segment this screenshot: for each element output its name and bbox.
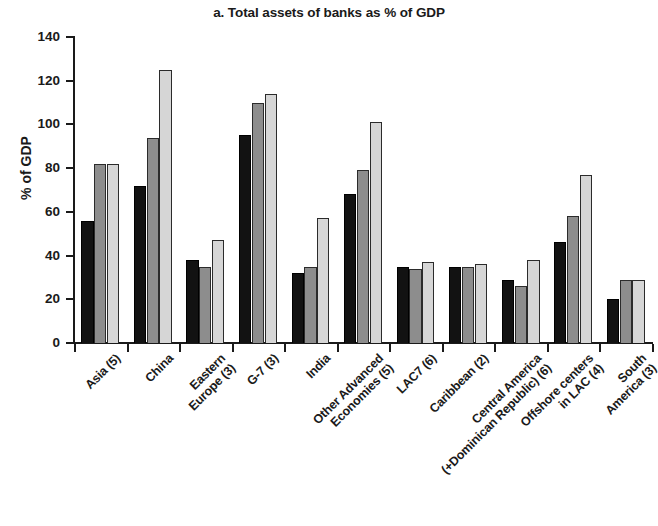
bar <box>94 164 106 343</box>
bar-group <box>502 37 540 343</box>
y-axis-tick-label: 40 <box>0 249 60 263</box>
y-axis-tick-label: 20 <box>0 292 60 306</box>
y-axis-tick <box>66 211 74 213</box>
bar <box>212 240 224 343</box>
bar <box>239 135 251 343</box>
x-axis-tick <box>127 344 129 352</box>
bar <box>527 260 539 343</box>
bar <box>422 262 434 343</box>
bar <box>370 122 382 343</box>
x-axis-tick <box>442 344 444 352</box>
bar <box>81 221 93 343</box>
bar <box>292 273 304 343</box>
x-axis-tick <box>232 344 234 352</box>
bar-group <box>397 37 435 343</box>
plot-area <box>74 37 652 343</box>
y-axis-tick <box>66 298 74 300</box>
x-axis-category-label: China <box>61 352 177 468</box>
y-axis-tick <box>66 255 74 257</box>
bar <box>344 194 356 343</box>
y-axis-tick <box>66 80 74 82</box>
bar <box>515 286 527 343</box>
bar <box>357 170 369 343</box>
x-axis-tick <box>337 344 339 352</box>
x-axis-category-label: Asia (5) <box>8 352 124 468</box>
bar <box>252 103 264 343</box>
bar-group <box>449 37 487 343</box>
bar-group <box>607 37 645 343</box>
bar-group <box>134 37 172 343</box>
x-axis-tick <box>547 344 549 352</box>
x-axis-tick <box>494 344 496 352</box>
bar <box>462 267 474 344</box>
bar <box>147 138 159 343</box>
y-axis-tick <box>66 36 74 38</box>
bar <box>317 218 329 343</box>
bar <box>567 216 579 343</box>
chart-title: a. Total assets of banks as % of GDP <box>0 5 658 20</box>
bar <box>475 264 487 343</box>
y-axis-tick-label: 0 <box>0 336 60 350</box>
chart-figure: a. Total assets of banks as % of GDP % o… <box>0 0 658 526</box>
bar <box>199 267 211 344</box>
bar <box>397 267 409 344</box>
bar <box>607 299 619 343</box>
bar <box>186 260 198 343</box>
bar <box>159 70 171 343</box>
bar <box>265 94 277 343</box>
bar <box>632 280 644 343</box>
bar-group <box>186 37 224 343</box>
x-axis-tick <box>179 344 181 352</box>
x-axis-tick <box>284 344 286 352</box>
x-axis-tick <box>652 344 654 352</box>
x-axis-tick <box>74 344 76 352</box>
y-axis-tick <box>66 342 74 344</box>
bar <box>502 280 514 343</box>
y-axis-tick-label: 120 <box>0 74 60 88</box>
y-axis-tick <box>66 123 74 125</box>
bar-group <box>554 37 592 343</box>
y-axis-tick-label: 100 <box>0 117 60 131</box>
bar <box>409 269 421 343</box>
bar <box>134 186 146 343</box>
y-axis-tick-label: 60 <box>0 205 60 219</box>
bar <box>304 267 316 344</box>
bar-group <box>292 37 330 343</box>
y-axis-tick-label: 80 <box>0 161 60 175</box>
bar <box>449 267 461 344</box>
y-axis-tick <box>66 167 74 169</box>
bar-group <box>344 37 382 343</box>
bar <box>580 175 592 343</box>
x-axis-tick <box>599 344 601 352</box>
bar <box>554 242 566 343</box>
bar <box>107 164 119 343</box>
y-axis-tick-label: 140 <box>0 30 60 44</box>
bar-group <box>239 37 277 343</box>
bar-group <box>81 37 119 343</box>
bar <box>620 280 632 343</box>
x-axis-tick <box>389 344 391 352</box>
